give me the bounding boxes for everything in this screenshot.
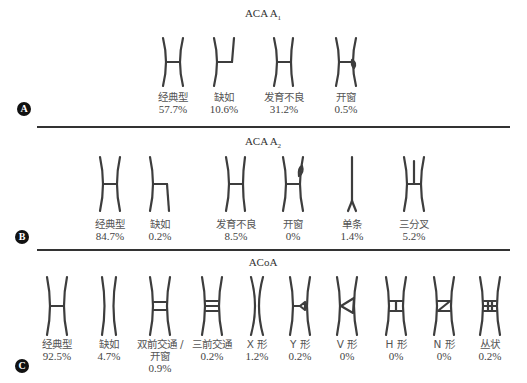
divider-a	[37, 126, 510, 128]
vessel-double-icon	[145, 275, 175, 337]
variant-percentage: 0.2%	[455, 350, 525, 362]
variant-label: 发育不良	[249, 91, 319, 103]
variant-percentage: 0.5%	[311, 103, 381, 115]
panel-a-title: ACA A1	[203, 7, 323, 22]
vessel-hypoplastic-icon	[221, 155, 251, 213]
panel-c-title-text: ACoA	[249, 256, 278, 268]
variant-percentage: 0.2%	[125, 230, 195, 242]
panel-c-title: ACoA	[203, 256, 323, 271]
vessel-v-icon	[332, 275, 362, 337]
vessel-classic-icon	[95, 155, 125, 213]
vessel-absent-icon	[94, 275, 124, 337]
vessel-plexus-icon	[475, 275, 505, 337]
variant-label: 三分叉	[379, 218, 449, 230]
vessel-y-icon	[285, 275, 315, 337]
vessel-missing-half-icon	[209, 36, 239, 88]
variant-item: 丛状0.2%	[455, 275, 525, 362]
variant-item: 开窗0.5%	[311, 36, 381, 115]
vessel-fenestration-top-icon	[278, 155, 308, 213]
variant-item: 发育不良31.2%	[249, 36, 319, 115]
variant-percentage: 1.4%	[317, 230, 387, 242]
panel-b-badge: B	[15, 230, 29, 244]
panel-c-badge: C	[15, 359, 29, 373]
variant-item: 单条1.4%	[317, 155, 387, 242]
panel-b-title-sub: 2	[278, 142, 282, 150]
variant-percentage: 0.9%	[125, 362, 195, 374]
vessel-classic-icon	[158, 36, 188, 88]
vessel-h-icon	[381, 275, 411, 337]
variant-percentage: 31.2%	[249, 103, 319, 115]
vessel-classic-icon	[42, 275, 72, 337]
variant-label: 单条	[317, 218, 387, 230]
variant-label: 开窗	[311, 91, 381, 103]
panel-b-title: ACA A2	[203, 135, 323, 150]
variant-item: 三分叉5.2%	[379, 155, 449, 242]
vessel-trifurcation-icon	[399, 155, 429, 213]
vessel-single-icon	[337, 155, 367, 213]
vessel-fenestration-icon	[331, 36, 361, 88]
panel-a-badge: A	[17, 102, 31, 116]
divider-b	[37, 249, 510, 251]
panel-b-title-text: ACA A	[245, 135, 278, 147]
panel-a-title-sub: 1	[278, 14, 282, 22]
variant-item: 缺如0.2%	[125, 155, 195, 242]
vessel-hypoplastic-icon	[269, 36, 299, 88]
variant-label: 缺如	[125, 218, 195, 230]
vessel-missing-a2-icon	[145, 155, 175, 213]
variant-label: 丛状	[455, 338, 525, 350]
panel-a-title-text: ACA A	[245, 7, 278, 19]
variant-percentage: 5.2%	[379, 230, 449, 242]
